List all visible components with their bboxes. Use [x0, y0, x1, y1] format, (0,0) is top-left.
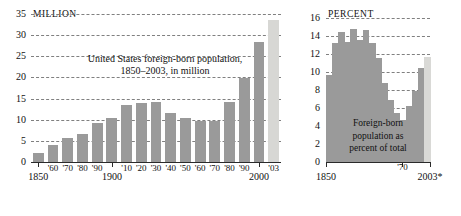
y-axis-tick-label: 16 — [302, 13, 320, 23]
x-axis-tick-mark — [112, 162, 113, 167]
bar — [106, 118, 117, 162]
x-axis-tick-label: 1850 — [316, 172, 336, 181]
bar — [62, 138, 73, 162]
x-axis-tick-label: '20 — [136, 164, 147, 173]
x-axis-tick-label: '10 — [121, 164, 132, 173]
y-axis-tick-label: 10 — [302, 67, 320, 77]
plot-area-left — [31, 14, 281, 162]
y-axis-tick-label: 14 — [302, 31, 320, 41]
chart-caption-line2: population as — [326, 131, 430, 142]
y-axis-tick-label: 12 — [302, 49, 320, 59]
bar — [224, 102, 235, 162]
y-axis-tick-label: 0 — [4, 157, 26, 167]
y-axis-tick-label: 10 — [4, 115, 26, 125]
bar — [92, 123, 103, 162]
x-axis-tick-mark — [38, 162, 39, 167]
x-axis-tick-label: 1850 — [28, 172, 48, 181]
bar — [151, 102, 162, 162]
bar-series-foreign-born-million — [31, 14, 281, 162]
y-axis-tick-label: 4 — [302, 121, 320, 131]
x-axis-tick-label: 1900 — [102, 172, 122, 181]
bar — [77, 134, 88, 162]
bar — [195, 121, 206, 162]
bar — [165, 113, 176, 162]
x-axis-tick-label: '70 — [397, 163, 408, 172]
bar — [239, 78, 250, 162]
chart-caption-line1: Foreign-born — [326, 118, 430, 129]
x-axis-tick-mark — [430, 162, 431, 167]
y-axis-tick-label: 6 — [302, 103, 320, 113]
bar — [136, 103, 147, 162]
y-axis-tick-label: 30 — [4, 30, 26, 40]
chart-caption-line3: percent of total — [326, 143, 430, 154]
y-axis-tick-label: 0 — [302, 157, 320, 167]
bar — [268, 20, 279, 162]
chart-panel-foreign-born-percent: PERCENT Foreign-born population as perce… — [300, 0, 461, 216]
x-axis-line-right — [326, 162, 430, 163]
bar — [209, 121, 220, 162]
x-axis-tick-label: 2003* — [418, 172, 443, 181]
bar — [121, 105, 132, 162]
chart-title-line1: United States foreign-born population, — [0, 53, 300, 65]
y-axis-tick-label: 25 — [4, 51, 26, 61]
x-axis-tick-label: '40 — [165, 164, 176, 173]
x-axis-tick-mark — [259, 162, 260, 167]
figure-two-panel-chart: MILLION United States foreign-born popul… — [0, 0, 461, 216]
bar — [33, 153, 44, 162]
y-axis-tick-label: 2 — [302, 139, 320, 149]
chart-panel-foreign-born-absolute: MILLION United States foreign-born popul… — [0, 0, 300, 216]
bar — [180, 118, 191, 162]
x-axis-tick-label: '50 — [180, 164, 191, 173]
y-axis-tick-label: 35 — [4, 9, 26, 19]
x-axis-tick-label: 2000 — [249, 172, 269, 181]
x-axis-tick-label: '30 — [151, 164, 162, 173]
x-axis-tick-mark — [326, 162, 327, 167]
y-axis-tick-label: 5 — [4, 136, 26, 146]
x-axis-tick-label: '60 — [195, 164, 206, 173]
chart-title-line2: 1850–2003, in million — [0, 65, 300, 77]
y-axis-tick-label: 20 — [4, 72, 26, 82]
x-axis-tick-label: '60 — [48, 164, 59, 173]
y-axis-tick-label: 8 — [302, 85, 320, 95]
x-axis-tick-label: '70 — [62, 164, 73, 173]
x-axis-tick-label: '03 — [268, 164, 279, 173]
y-axis-tick-label: 15 — [4, 94, 26, 104]
x-axis-tick-label: '80 — [77, 164, 88, 173]
x-axis-tick-label: '80 — [224, 164, 235, 173]
x-axis-tick-label: '70 — [210, 164, 221, 173]
bar — [48, 145, 59, 162]
